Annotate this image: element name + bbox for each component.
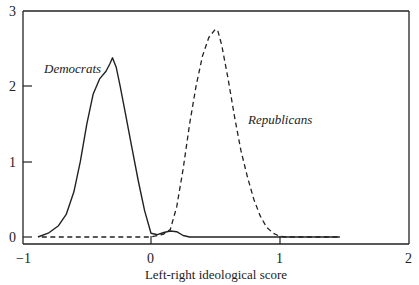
y-tick-label-0: 0 [9,230,16,245]
density-chart: 3 2 1 0 −1 0 1 2 Left-right ideological … [0,0,419,285]
y-tick-label-3: 3 [9,4,16,19]
y-tick-label-2: 2 [9,79,16,94]
y-axis-ticks [23,86,32,237]
x-tick-label-0: 0 [147,251,154,266]
democrats-density-line [38,58,340,237]
plot-frame [23,11,409,244]
x-tick-label-2: 2 [405,251,412,266]
x-tick-label-1: 1 [276,251,283,266]
republicans-label: Republicans [247,112,312,127]
democrats-label: Democrats [43,61,101,76]
x-tick-label-minus1: −1 [16,251,31,266]
y-tick-label-1: 1 [9,155,16,170]
x-axis-title: Left-right ideological score [145,267,287,282]
